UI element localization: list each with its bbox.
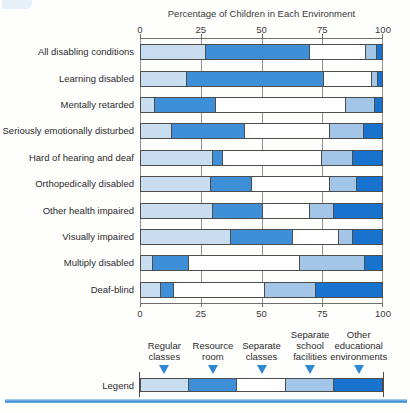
plot-area [140, 38, 383, 304]
legend-item-label: Regularclasses [148, 340, 181, 362]
segment-other-educational-environments [377, 45, 382, 59]
category-axis: All disabling conditionsLearning disable… [0, 38, 134, 302]
bottom-tick-0 [140, 303, 141, 307]
legend-swatch-other-educational-environments [334, 379, 382, 391]
segment-separate-classes [174, 283, 266, 297]
segment-resource-room [213, 151, 223, 165]
page-corner-smudge [2, 0, 32, 9]
segment-regular-classes [141, 283, 161, 297]
segment-separate-school-facilities [346, 98, 375, 112]
segment-other-educational-environments [316, 283, 382, 297]
segment-separate-school-facilities [310, 204, 334, 218]
segment-separate-classes [216, 98, 346, 112]
legend-swatch-resource-room [189, 379, 237, 391]
legend-swatch-regular-classes [141, 379, 189, 391]
segment-regular-classes [141, 204, 213, 218]
segment-other-educational-environments [353, 230, 382, 244]
segment-resource-room [155, 98, 215, 112]
category-label: Mentally retarded [61, 99, 134, 110]
segment-separate-school-facilities [339, 230, 353, 244]
bar-row [140, 123, 383, 139]
category-label: Orthopedically disabled [35, 178, 134, 189]
category-label: Learning disabled [59, 72, 134, 83]
legend-caption: Legend [102, 380, 134, 391]
category-label: Multiply disabled [64, 257, 134, 268]
segment-other-educational-environments [375, 98, 382, 112]
segment-resource-room [206, 45, 310, 59]
segment-separate-school-facilities [330, 124, 364, 138]
legend-right-tick [383, 372, 384, 397]
segment-separate-classes [223, 151, 322, 165]
segment-regular-classes [141, 124, 172, 138]
category-label: Seriously emotionally disturbed [3, 125, 134, 136]
segment-separate-school-facilities [300, 256, 365, 270]
segment-separate-classes [324, 72, 372, 86]
top-tick-label-75: 75 [317, 24, 328, 35]
legend-item-label: Separateclasses [242, 340, 281, 362]
bottom-tick-label-75: 75 [317, 308, 328, 319]
segment-regular-classes [141, 230, 231, 244]
segment-regular-classes [141, 177, 211, 191]
category-label: Deaf-blind [91, 283, 134, 294]
top-tick-label-25: 25 [195, 24, 206, 35]
segment-separate-classes [293, 230, 339, 244]
segment-regular-classes [141, 151, 213, 165]
legend-swatch-separate-school-facilities [286, 379, 334, 391]
segment-separate-classes [189, 256, 300, 270]
segment-resource-room [231, 230, 292, 244]
bar-row [140, 176, 383, 192]
segment-separate-classes [245, 124, 331, 138]
segment-other-educational-environments [334, 204, 382, 218]
legend-marker-triangle-icon [208, 365, 218, 374]
bottom-tick-50 [262, 303, 263, 307]
top-tick-label-100: 100 [375, 24, 391, 35]
segment-resource-room [211, 177, 252, 191]
legend-marker-triangle-icon [159, 365, 169, 374]
category-label: Visually impaired [62, 231, 134, 242]
segment-separate-school-facilities [322, 151, 353, 165]
segment-separate-classes [252, 177, 330, 191]
category-label: Other health impaired [43, 204, 134, 215]
segment-separate-classes [263, 204, 310, 218]
segment-separate-classes [310, 45, 367, 59]
bar-row [140, 97, 383, 113]
bottom-tick-25 [201, 303, 202, 307]
bottom-tick-75 [322, 303, 323, 307]
legend-marker-triangle-icon [257, 365, 267, 374]
chart-title: Percentage of Children in Each Environme… [140, 8, 383, 19]
bar-row [140, 71, 383, 87]
segment-regular-classes [141, 72, 187, 86]
segment-regular-classes [141, 256, 153, 270]
segment-other-educational-environments [353, 151, 382, 165]
segment-separate-school-facilities [265, 283, 316, 297]
legend-swatch-separate-classes [237, 379, 285, 391]
segment-resource-room [153, 256, 189, 270]
chart-figure: Percentage of Children in Each Environme… [0, 0, 410, 413]
legend-marker-triangle-icon [354, 365, 364, 374]
category-label: Hard of hearing and deaf [29, 151, 134, 162]
segment-separate-school-facilities [366, 45, 377, 59]
segment-separate-school-facilities [330, 177, 357, 191]
legend-bar [140, 378, 383, 392]
category-label: All disabling conditions [38, 46, 134, 57]
legend-item-label: Othereducationalenvironments [330, 329, 387, 362]
bar-row [140, 150, 383, 166]
bottom-tick-label-50: 50 [256, 308, 267, 319]
legend-marker-triangle-icon [305, 365, 315, 374]
segment-resource-room [172, 124, 244, 138]
bottom-tick-100 [382, 303, 383, 307]
segment-regular-classes [141, 98, 155, 112]
segment-resource-room [161, 283, 173, 297]
segment-other-educational-environments [378, 72, 382, 86]
bar-row [140, 282, 383, 298]
bar-row [140, 203, 383, 219]
bottom-tick-label-100: 100 [375, 308, 391, 319]
bar-row [140, 255, 383, 271]
segment-resource-room [213, 204, 262, 218]
legend-left-tick [139, 372, 140, 397]
bottom-tick-label-25: 25 [195, 308, 206, 319]
segment-other-educational-environments [357, 177, 382, 191]
legend-item-label: Resourceroom [193, 340, 234, 362]
bottom-tick-label-0: 0 [137, 308, 142, 319]
bar-row [140, 229, 383, 245]
